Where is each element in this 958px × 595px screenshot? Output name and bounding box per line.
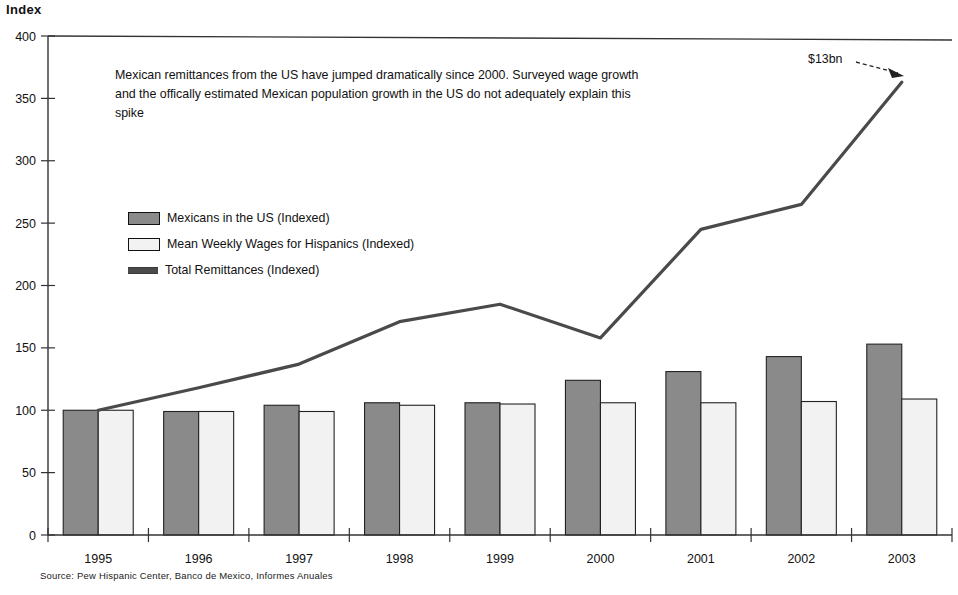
- annotation-line-2: and the offically estimated Mexican popu…: [115, 85, 735, 104]
- x-tick-label: 2003: [888, 552, 916, 566]
- y-tick-label: 200: [15, 279, 36, 293]
- legend-item-mexicans: Mexicans in the US (Indexed): [128, 205, 414, 231]
- bar-mean-2000: [600, 403, 635, 535]
- annotation-line-1: Mexican remittances from the US have jum…: [115, 66, 735, 85]
- chart-container: Index 400350300250200150100500 199519961…: [0, 0, 958, 595]
- y-tick-label: 0: [29, 529, 36, 543]
- y-tick-label: 100: [15, 404, 36, 418]
- legend-swatch-wages-icon: [128, 238, 160, 251]
- annotation-line-3: spike: [115, 104, 735, 123]
- bar-mean-1998: [400, 405, 435, 535]
- bar-mean-2003: [902, 399, 937, 535]
- legend-label-mexicans: Mexicans in the US (Indexed): [167, 211, 330, 225]
- bar-mean-2002: [801, 402, 836, 535]
- x-tick-label: 2000: [587, 552, 615, 566]
- bar-mean-1997: [299, 411, 334, 535]
- bar-mexicans-2003: [867, 344, 902, 535]
- callout-arrow-head: [888, 68, 904, 78]
- chart-legend: Mexicans in the US (Indexed) Mean Weekly…: [128, 205, 414, 283]
- x-tick-label: 2001: [687, 552, 715, 566]
- x-tick-label: 1999: [486, 552, 514, 566]
- y-tick-label: 300: [15, 154, 36, 168]
- bar-mexicans-1998: [365, 403, 400, 535]
- callout-label-13bn: $13bn: [808, 52, 842, 66]
- legend-item-remittances: Total Remittances (Indexed): [128, 257, 414, 283]
- chart-annotation-note: Mexican remittances from the US have jum…: [115, 66, 735, 123]
- x-tick-label: 1998: [386, 552, 414, 566]
- x-tick-label: 1997: [285, 552, 313, 566]
- bar-mexicans-2001: [666, 372, 701, 535]
- bar-mexicans-2002: [766, 357, 801, 535]
- callout-arrow: [856, 62, 904, 78]
- legend-swatch-mexicans-icon: [128, 212, 160, 225]
- y-tick-label: 400: [15, 30, 36, 44]
- bar-mexicans-1997: [264, 405, 299, 535]
- x-tick-label: 1996: [185, 552, 213, 566]
- bar-mexicans-1999: [465, 403, 500, 535]
- y-axis-ticks: 400350300250200150100500: [15, 30, 55, 543]
- legend-label-remittances: Total Remittances (Indexed): [165, 263, 319, 277]
- top-border-line: [48, 36, 952, 40]
- bar-series-group: [63, 344, 937, 535]
- bar-mexicans-1995: [63, 410, 98, 535]
- bar-mean-1995: [98, 410, 133, 535]
- source-note: Source: Pew Hispanic Center, Banco de Me…: [40, 570, 333, 581]
- bar-mean-1999: [500, 404, 535, 535]
- legend-item-wages: Mean Weekly Wages for Hispanics (Indexed…: [128, 231, 414, 257]
- x-tick-label: 1995: [84, 552, 112, 566]
- y-tick-label: 150: [15, 341, 36, 355]
- bar-mexicans-2000: [565, 380, 600, 535]
- y-tick-label: 50: [22, 466, 36, 480]
- y-tick-label: 350: [15, 92, 36, 106]
- legend-label-wages: Mean Weekly Wages for Hispanics (Indexed…: [167, 237, 414, 251]
- bar-mean-2001: [701, 403, 736, 535]
- x-tick-label: 2002: [787, 552, 815, 566]
- y-tick-label: 250: [15, 217, 36, 231]
- bar-mexicans-1996: [164, 411, 199, 535]
- legend-swatch-remittances-icon: [128, 267, 158, 274]
- bar-mean-1996: [199, 411, 234, 535]
